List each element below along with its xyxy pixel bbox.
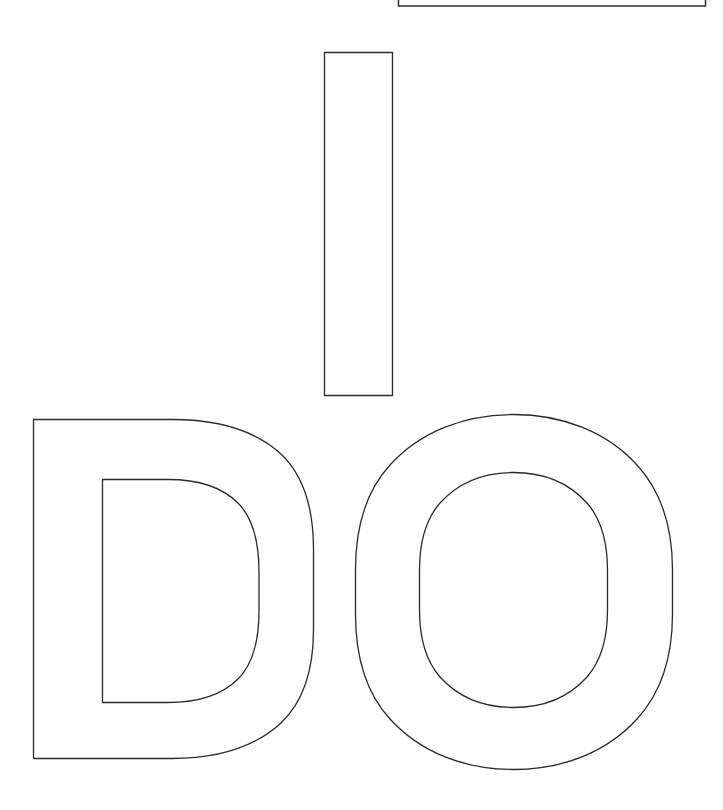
letter-o-outline [356, 415, 673, 770]
stencil-page: I DO I DO [0, 0, 723, 810]
letter-d-outline [34, 420, 314, 759]
letter-i-outline [325, 53, 393, 396]
letter-stencil-canvas [0, 0, 723, 810]
partial-rectangle-top-right-icon [399, 0, 706, 6]
